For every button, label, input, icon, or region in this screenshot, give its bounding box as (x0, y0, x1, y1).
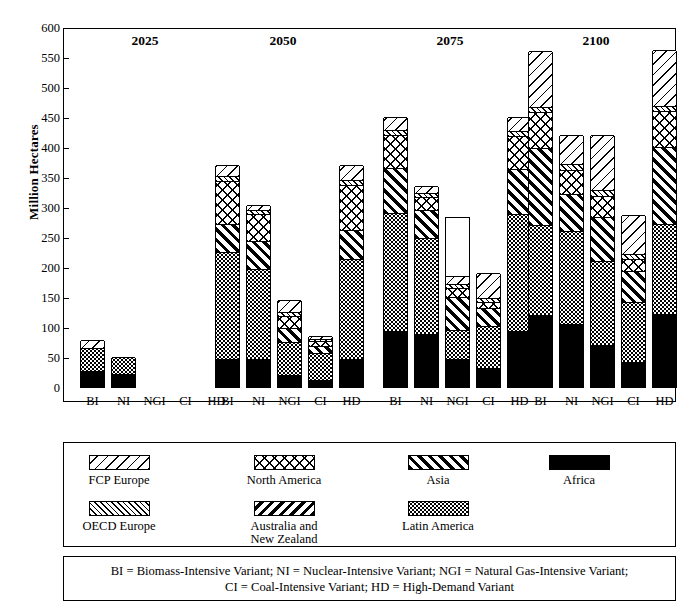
bar-2075-BI[interactable] (383, 118, 408, 388)
segment-2100-HD-oecd-europe (653, 106, 676, 111)
y-tick-label-100: 100 (26, 323, 60, 333)
segment-2050-NI-latin-america (247, 269, 270, 359)
segment-2050-NI-fcp-europe (247, 205, 270, 210)
y-tick-mark-250 (63, 238, 69, 239)
bar-2050-NGI[interactable] (277, 301, 302, 388)
legend-item-fcp-europe[interactable]: FCP Europe (59, 455, 179, 487)
segment-2075-BI-latin-america (384, 213, 407, 331)
variant-definitions-box: BI = Biomass-Intensive Variant; NI = Nuc… (63, 556, 676, 601)
segment-2050-CI-north-america (309, 341, 332, 346)
segment-2100-HD-asia (653, 147, 676, 224)
bar-2050-CI[interactable] (308, 337, 333, 388)
legend-item-latin-america[interactable]: Latin America (378, 501, 498, 533)
legend-swatch-cross-hatch (254, 455, 315, 470)
segment-2050-NI-oecd-europe (247, 210, 270, 214)
y-tick-mark-100 (63, 328, 69, 329)
segment-2075-BI-oecd-europe (384, 130, 407, 135)
segment-2050-BI-asia (216, 224, 239, 252)
y-axis-tick-labels: 050100150200250300350400450500550600 (20, 14, 60, 414)
segment-2050-NGI-asia (278, 328, 301, 342)
y-tick-label-600: 600 (26, 23, 60, 33)
y-tick-label-450: 450 (26, 113, 60, 123)
legend-label: Africa (519, 474, 639, 487)
legend: FCP EuropeNorth AmericaAsiaAfricaOECD Eu… (63, 442, 676, 547)
bar-2100-NGI[interactable] (590, 136, 615, 388)
period-heading-2025: 2025 (105, 33, 185, 49)
segment-2100-BI-latin-america (529, 225, 552, 315)
bar-2100-CI[interactable] (621, 216, 646, 388)
y-tick-label-500: 500 (26, 83, 60, 93)
segment-2050-BI-oecd-europe (216, 176, 239, 181)
segment-2100-CI-africa (622, 362, 645, 387)
legend-item-africa[interactable]: Africa (519, 455, 639, 487)
legend-label: Australia and New Zealand (224, 520, 344, 546)
segment-2100-NI-north-america (560, 170, 583, 194)
segment-2100-BI-north-america (529, 112, 552, 148)
legend-swatch-thick-back-diagonal (254, 501, 315, 516)
segment-2025-BI-fcp-europe (81, 340, 104, 348)
segment-2100-CI-north-america (622, 259, 645, 271)
segment-2050-NGI-latin-america (278, 342, 301, 375)
plot-area (63, 28, 676, 402)
segment-2050-BI-africa (216, 359, 239, 387)
segment-2100-HD-fcp-europe (653, 50, 676, 106)
y-tick-label-300: 300 (26, 203, 60, 213)
legend-item-asia[interactable]: Asia (378, 455, 498, 487)
segment-2100-NI-asia (560, 194, 583, 231)
segment-2075-CI-latin-america (477, 326, 500, 368)
legend-swatch-thick-forward-diagonal (408, 455, 469, 470)
segment-2100-BI-africa (529, 315, 552, 387)
y-tick-mark-150 (63, 298, 69, 299)
segment-2100-NGI-africa (591, 345, 614, 387)
legend-item-north-america[interactable]: North America (224, 455, 344, 487)
variant-definitions-line-1: BI = Biomass-Intensive Variant; NI = Nuc… (111, 563, 629, 579)
bar-2075-NGI[interactable] (445, 217, 470, 388)
variant-definitions-line-2: CI = Coal-Intensive Variant; HD = High-D… (111, 579, 629, 595)
segment-2100-HD-north-america (653, 111, 676, 147)
legend-swatch-dense-thin-forward-diagonal (89, 501, 150, 516)
segment-2100-NGI-fcp-europe (591, 135, 614, 190)
bar-2050-NI[interactable] (246, 206, 271, 388)
segment-2100-NI-latin-america (560, 231, 583, 324)
bar-2050-BI[interactable] (215, 166, 240, 388)
legend-item-australia-and-new-zealand[interactable]: Australia and New Zealand (224, 501, 344, 546)
segment-2050-HD-oecd-europe (340, 180, 363, 185)
segment-2050-NGI-north-america (278, 316, 301, 328)
segment-2075-NI-north-america (415, 197, 438, 210)
bar-2075-NI[interactable] (414, 187, 439, 388)
segment-2100-NI-africa (560, 324, 583, 387)
segment-2075-NI-fcp-europe (415, 186, 438, 193)
x-tick-label-2100-HD: HD (645, 394, 685, 409)
segment-2075-BI-africa (384, 331, 407, 387)
segment-2025-BI-africa (81, 371, 104, 387)
y-tick-mark-450 (63, 118, 69, 119)
segment-2075-BI-asia (384, 168, 407, 213)
legend-label: OECD Europe (59, 520, 179, 533)
bar-2075-CI[interactable] (476, 274, 501, 388)
segment-2050-BI-latin-america (216, 252, 239, 359)
segment-2100-NGI-latin-america (591, 261, 614, 345)
y-tick-label-250: 250 (26, 233, 60, 243)
legend-item-oecd-europe[interactable]: OECD Europe (59, 501, 179, 533)
bar-2025-BI[interactable] (80, 341, 105, 388)
period-heading-2100: 2100 (556, 33, 636, 49)
segment-2050-NI-north-america (247, 214, 270, 241)
segment-2050-CI-africa (309, 380, 332, 387)
period-heading-2075: 2075 (410, 33, 490, 49)
segment-2075-CI-north-america (477, 302, 500, 308)
segment-2050-HD-latin-america (340, 259, 363, 359)
segment-2075-CI-asia (477, 308, 500, 326)
segment-2025-NI-latin-america (112, 357, 135, 374)
y-tick-mark-350 (63, 178, 69, 179)
top-margin-strip (0, 0, 692, 14)
bar-2100-HD[interactable] (652, 51, 677, 388)
legend-label: North America (224, 474, 344, 487)
bar-2100-NI[interactable] (559, 136, 584, 388)
segment-2075-NGI-oecd-europe (446, 284, 469, 288)
bar-2100-BI[interactable] (528, 52, 553, 388)
legend-label: Asia (378, 474, 498, 487)
segment-2050-NGI-fcp-europe (278, 300, 301, 312)
bar-2050-HD[interactable] (339, 166, 364, 388)
segment-2050-NI-asia (247, 241, 270, 269)
bar-2025-NI[interactable] (111, 358, 136, 388)
